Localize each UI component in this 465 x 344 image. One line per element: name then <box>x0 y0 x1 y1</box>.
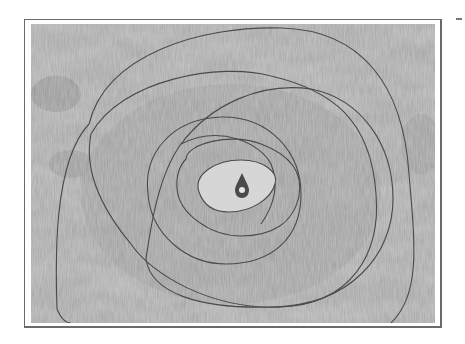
painting-canvas <box>31 24 435 323</box>
corner-mark <box>456 18 462 20</box>
